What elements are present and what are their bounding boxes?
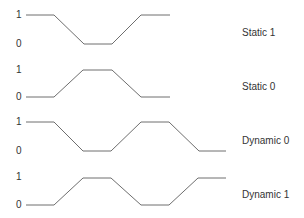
level-low-label: 0 [16,39,22,49]
level-high-label: 1 [16,117,22,127]
waveform-name-static-0: Static 0 [242,82,275,92]
waveform-dynamic-0 [26,122,226,151]
waveform-name-dynamic-0: Dynamic 0 [242,136,289,146]
level-high-label: 1 [16,172,22,182]
level-high-label: 1 [16,65,22,75]
waveform-dynamic-1 [26,178,226,205]
waveform-name-static-1: Static 1 [242,28,275,38]
hazard-waveform-diagram: 1 0 Static 1 1 0 Static 0 1 0 Dynamic 0 … [0,0,304,218]
waveform-static-1 [26,15,170,44]
level-low-label: 0 [16,92,22,102]
waveform-static-0 [26,70,170,97]
waveform-name-dynamic-1: Dynamic 1 [242,190,289,200]
level-high-label: 1 [16,10,22,20]
level-low-label: 0 [16,146,22,156]
level-low-label: 0 [16,200,22,210]
